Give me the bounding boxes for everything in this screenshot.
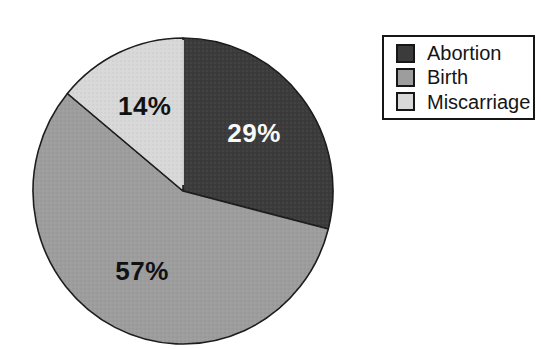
legend-label-birth: Birth: [427, 67, 468, 87]
legend-swatch-abortion: [396, 44, 415, 63]
pie-slice-percentage-miscarriage: 14%: [118, 91, 172, 121]
legend-item-birth: Birth: [396, 65, 533, 89]
legend-swatch-miscarriage: [396, 92, 415, 111]
legend-item-abortion: Abortion: [396, 41, 533, 65]
chart-legend: AbortionBirthMiscarriage: [382, 35, 535, 120]
pie-chart-figure: 29%57%14% AbortionBirthMiscarriage: [0, 0, 541, 349]
legend-label-abortion: Abortion: [427, 43, 502, 63]
legend-item-miscarriage: Miscarriage: [396, 90, 533, 114]
legend-swatch-birth: [396, 68, 415, 87]
pie-slice-percentage-birth: 57%: [115, 256, 169, 286]
pie-slice-percentage-abortion: 29%: [227, 118, 281, 148]
legend-label-miscarriage: Miscarriage: [427, 92, 530, 112]
